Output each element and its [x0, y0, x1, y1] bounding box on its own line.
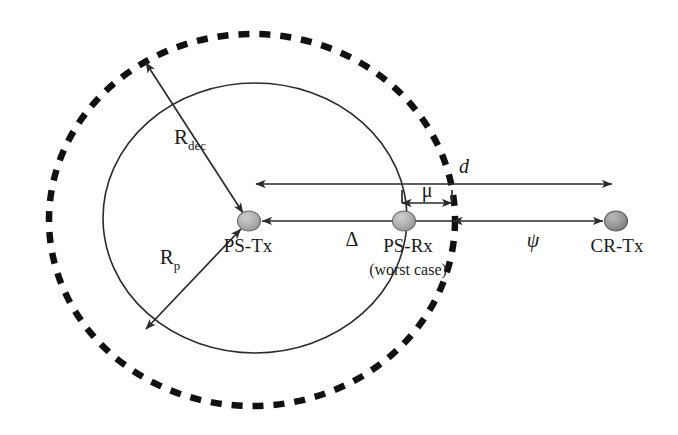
- node-label-cr-tx: CR-Tx: [591, 235, 644, 256]
- label-mu: μ: [422, 179, 433, 202]
- node-ps-tx[interactable]: [238, 211, 261, 231]
- node-sublabel-ps-rx: (worst case): [369, 261, 447, 279]
- diagram-canvas: PS-Tx PS-Rx (worst case) CR-Tx Rdec Rp d…: [0, 0, 678, 435]
- node-label-ps-rx: PS-Rx: [383, 235, 433, 256]
- label-delta: Δ: [346, 228, 359, 250]
- label-d: d: [459, 155, 470, 177]
- label-r-p-base: R: [160, 245, 174, 269]
- label-r-p-subscript: p: [174, 258, 181, 273]
- interference-geometry-diagram: PS-Tx PS-Rx (worst case) CR-Tx Rdec Rp d…: [0, 0, 678, 435]
- node-label-ps-tx: PS-Tx: [224, 235, 273, 256]
- label-r-dec: Rdec: [174, 125, 206, 153]
- node-ps-rx[interactable]: [393, 211, 416, 231]
- label-psi: ψ: [527, 229, 540, 252]
- label-r-p: Rp: [160, 245, 181, 273]
- label-r-dec-subscript: dec: [188, 138, 206, 153]
- node-cr-tx[interactable]: [605, 211, 628, 231]
- label-r-dec-base: R: [174, 125, 188, 149]
